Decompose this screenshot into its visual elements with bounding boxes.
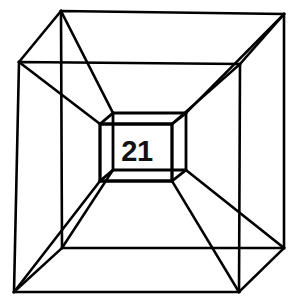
center-number-label: 21 — [121, 135, 153, 167]
tesseract-figure: 21 — [0, 0, 291, 303]
tesseract-drawing: 21 — [0, 0, 291, 303]
